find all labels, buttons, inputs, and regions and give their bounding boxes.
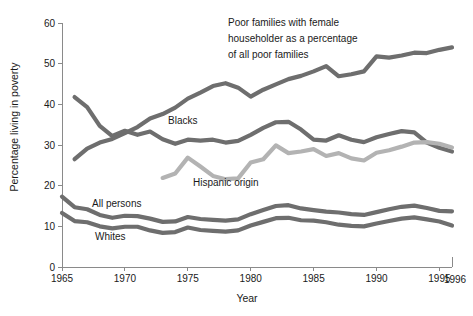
series-line (75, 97, 452, 151)
annotations: Poor families with femalehouseholder as … (228, 17, 358, 60)
x-axis-title: Year (236, 292, 258, 304)
series-label: Hispanic origin (193, 177, 259, 188)
y-tick-label: 20 (44, 180, 56, 191)
y-tick-label: 50 (44, 58, 56, 69)
y-tick-label: 0 (49, 262, 55, 273)
female-householder-annotation-line: householder as a percentage (228, 33, 358, 44)
y-tick-label: 10 (44, 221, 56, 232)
y-axis-title: Percentage living in poverty (8, 62, 20, 192)
series-line (163, 142, 452, 179)
series-label: All persons (92, 198, 141, 209)
x-tick-label: 1980 (240, 273, 263, 284)
axes: 0102030405060196519701975198019851990199… (8, 18, 467, 305)
series-line (75, 47, 452, 159)
y-tick-label: 30 (44, 140, 56, 151)
series-label: Whites (95, 231, 126, 242)
female-householder-annotation-line: Poor families with female (228, 17, 340, 28)
x-tick-label: 1985 (302, 273, 325, 284)
series-label: Blacks (168, 115, 197, 126)
x-tick-label: 1970 (114, 273, 137, 284)
x-tick-label: 1965 (51, 273, 74, 284)
y-tick-label: 60 (44, 18, 56, 29)
chart-canvas: 0102030405060196519701975198019851990199… (0, 0, 473, 316)
x-end-label: 1996 (444, 274, 467, 285)
y-tick-label: 40 (44, 99, 56, 110)
x-tick-label: 1990 (365, 273, 388, 284)
x-tick-label: 1975 (177, 273, 200, 284)
female-householder-annotation-line: of all poor families (228, 49, 309, 60)
poverty-line-chart: 0102030405060196519701975198019851990199… (0, 0, 473, 316)
